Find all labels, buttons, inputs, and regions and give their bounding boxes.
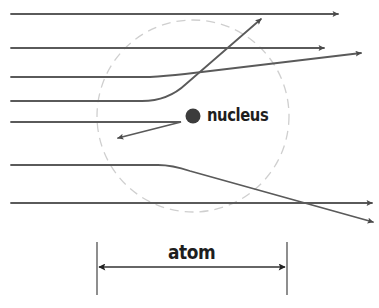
alpha-path-6-downward-deflection xyxy=(11,165,373,222)
atom-label: atom xyxy=(168,240,215,264)
nucleus-label: nucleus xyxy=(207,104,268,125)
nucleus-dot xyxy=(186,109,201,124)
alpha-path-3-slight-deflection xyxy=(11,53,361,77)
rutherford-diagram: nucleus atom xyxy=(0,0,379,308)
alpha-path-4-strong-deflection xyxy=(11,19,261,101)
alpha-path-5-back-scattered xyxy=(11,122,181,138)
